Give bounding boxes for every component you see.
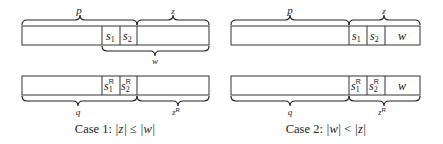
label-p: p [286,4,293,16]
label-p: p [75,4,82,16]
top-string-box [22,26,209,45]
label-w: w [152,56,158,66]
cell-s2-reversed: sR2 [369,78,379,94]
case2-panel: p z s1 s2 w sR1 sR2 w q zR Case 2: |w| <… [231,4,420,136]
brace-q-bottom [231,96,349,106]
cell-s1-reversed: sR1 [104,78,114,94]
case1-caption: Case 1: |z| ≤ |w| [75,122,155,136]
cell-s2-reversed: sR2 [121,78,131,94]
label-z: z [381,6,386,16]
brace-z-top [137,15,209,25]
brace-zR-bottom [137,96,209,106]
label-z-reversed: zR [171,107,180,117]
brace-p-top [22,15,137,25]
cell-w: w [398,29,406,43]
bottom-string-box [22,76,209,95]
string-decomposition-diagram: p z s1 s2 w sR1 sR2 q zR Case 1: |z| ≤ |… [0,0,443,144]
brace-w-bottom [102,46,209,56]
label-q: q [288,107,293,117]
cell-w: w [398,79,406,93]
bottom-string-box [231,76,420,95]
brace-q-bottom [22,96,137,106]
label-q: q [76,107,81,117]
brace-zR-bottom [349,96,420,106]
label-z: z [170,6,175,16]
brace-p-top [231,15,349,25]
case2-caption: Case 2: |w| < |z| [286,122,367,136]
cell-s1-reversed: sR1 [351,78,361,94]
label-z-reversed: zR [377,107,386,117]
brace-z-top [349,15,420,25]
top-string-box [231,26,420,45]
case1-panel: p z s1 s2 w sR1 sR2 q zR Case 1: |z| ≤ |… [22,4,209,136]
